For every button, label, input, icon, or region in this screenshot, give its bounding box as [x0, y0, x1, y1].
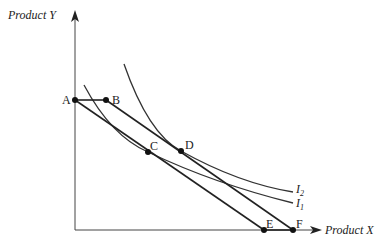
label-f: F — [296, 217, 303, 231]
budget-line-bf — [106, 100, 293, 230]
indifference-curve-diagram: Product Y Product X A B C D E F I2 I1 — [0, 0, 382, 245]
y-axis-label: Product Y — [7, 8, 57, 22]
label-d: D — [185, 138, 194, 152]
point-b — [103, 97, 109, 103]
point-a — [72, 97, 78, 103]
label-a: A — [62, 93, 71, 107]
label-i1: I1 — [295, 196, 304, 212]
x-axis-label: Product X — [324, 223, 374, 237]
label-c: C — [150, 139, 158, 153]
diagram-canvas: Product Y Product X A B C D E F I2 I1 — [0, 0, 382, 245]
label-b: B — [112, 93, 120, 107]
budget-line-ae — [75, 100, 264, 230]
indifference-curve-i2 — [124, 64, 293, 192]
label-e: E — [266, 217, 273, 231]
point-d — [178, 148, 184, 154]
